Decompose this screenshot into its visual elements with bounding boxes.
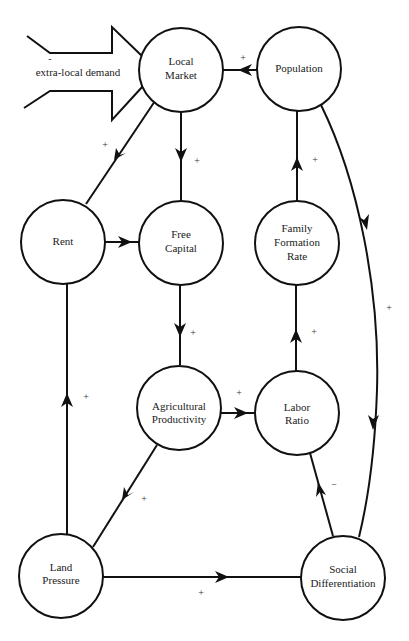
edge-family-formation-rate-to-population: +: [291, 110, 318, 201]
node-label: Social: [329, 563, 357, 575]
node-label: Labor: [284, 401, 311, 413]
sign-population-local-market: +: [240, 52, 246, 63]
edge-rent-to-free-capital: [105, 236, 139, 248]
arrowhead-icon: [368, 415, 379, 430]
extra-local-demand-label: extra-local demand: [36, 66, 121, 78]
node-label: Productivity: [152, 413, 207, 425]
node-rent: Rent: [21, 200, 105, 284]
node-agricultural-productivity: Agricultural Productivity: [137, 366, 221, 450]
node-label: Rent: [53, 235, 74, 247]
sign-agricultural-productivity-land-pressure: +: [141, 493, 147, 504]
node-label: Differentiation: [310, 577, 376, 589]
edge-local-market-to-free-capital: +: [175, 112, 200, 201]
sign-land-pressure-rent: +: [83, 391, 89, 402]
node-label: Pressure: [42, 574, 79, 586]
edge-social-differentiation-to-labor-ratio: −: [310, 453, 337, 536]
sign-free-capital-agricultural-productivity: +: [190, 327, 196, 338]
node-label: Local: [168, 55, 193, 67]
node-label: Agricultural: [152, 400, 206, 412]
sign-labor-ratio-family-formation-rate: +: [311, 326, 317, 337]
sign-family-formation-rate-population: +: [312, 154, 318, 165]
node-family-formation-rate: Family Formation Rate: [255, 201, 339, 285]
sign-population-social-differentiation: +: [386, 302, 392, 313]
edge-population-to-social-differentiation: +: [321, 105, 392, 537]
node-social-differentiation: Social Differentiation: [301, 536, 385, 620]
sign-land-pressure-social-differentiation: +: [198, 587, 204, 598]
edge-agricultural-productivity-to-land-pressure: +: [93, 445, 157, 547]
sign-extra-local-demand: -: [48, 53, 51, 64]
arrowhead-icon: [122, 487, 134, 500]
sign-social-differentiation-labor-ratio: −: [331, 479, 337, 490]
node-label: Capital: [165, 242, 197, 254]
sign-local-market-rent: +: [102, 139, 108, 150]
node-label: Formation: [274, 236, 320, 248]
edge-land-pressure-to-rent: +: [61, 283, 89, 534]
node-land-pressure: Land Pressure: [19, 534, 103, 618]
node-local-market: Local Market: [139, 28, 223, 112]
node-label: Ratio: [285, 414, 309, 426]
sign-agricultural-productivity-labor-ratio: +: [236, 387, 242, 398]
edge-labor-ratio-to-family-formation-rate: +: [290, 285, 317, 371]
edge-free-capital-to-agricultural-productivity: +: [174, 285, 196, 365]
node-label: Land: [50, 561, 73, 573]
edge-population-to-local-market: +: [223, 52, 257, 76]
edge-land-pressure-to-social-differentiation: +: [103, 571, 301, 598]
extra-local-demand-arrow: - extra-local demand: [24, 27, 143, 120]
node-label: Free: [171, 228, 191, 240]
edge-local-market-to-rent: +: [86, 101, 155, 204]
node-label: Market: [165, 69, 197, 81]
sign-local-market-free-capital: +: [194, 155, 200, 166]
node-population: Population: [257, 27, 341, 111]
node-label: Family: [281, 222, 313, 234]
node-label: Population: [275, 62, 323, 74]
node-free-capital: Free Capital: [139, 201, 223, 285]
causal-loop-diagram: - extra-local demand + + + + +: [0, 0, 409, 641]
edge-agricultural-productivity-to-labor-ratio: +: [221, 387, 255, 419]
node-labor-ratio: Labor Ratio: [255, 371, 339, 455]
node-label: Rate: [287, 250, 307, 262]
